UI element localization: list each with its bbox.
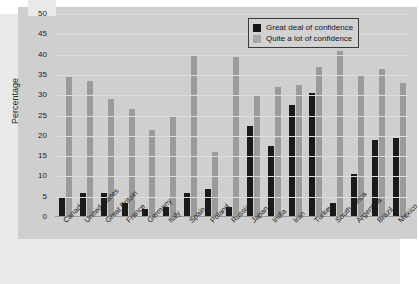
legend-swatch-quite-a-lot [253, 35, 261, 43]
y-axis-tick-50: 50 [38, 10, 47, 18]
legend-swatch-great-deal [253, 24, 261, 32]
y-axis-tick-5: 5 [43, 193, 47, 201]
y-axis-tick-45: 45 [38, 30, 47, 38]
gridline-50 [55, 14, 410, 15]
gridline-25 [55, 116, 410, 117]
bar-great-deal [309, 93, 315, 217]
legend-item-great-deal: Great deal of confidence [253, 22, 353, 33]
y-axis-tick-30: 30 [38, 91, 47, 99]
y-axis-tick-35: 35 [38, 71, 47, 79]
chart-legend: Great deal of confidence Quite a lot of … [248, 18, 359, 48]
bar-great-deal [205, 189, 211, 217]
x-axis-tick-labels: CanadaUnited StatesGreat BritainFranceGe… [55, 219, 410, 284]
y-axis-tick-0: 0 [43, 213, 47, 221]
bar-quite-a-lot [316, 67, 322, 217]
bar-quite-a-lot [149, 130, 155, 217]
legend-label-quite-a-lot: Quite a lot of confidence [266, 34, 352, 43]
y-axis-tick-10: 10 [38, 172, 47, 180]
legend-item-quite-a-lot: Quite a lot of confidence [253, 33, 353, 44]
y-axis-tick-15: 15 [38, 152, 47, 160]
bar-great-deal [393, 138, 399, 217]
bar-quite-a-lot [379, 69, 385, 217]
bar-quite-a-lot [233, 57, 239, 217]
y-axis-tick-40: 40 [38, 51, 47, 59]
y-axis-tick-labels: 05101520253035404550 [0, 0, 55, 284]
gridline-35 [55, 75, 410, 76]
y-axis-tick-25: 25 [38, 112, 47, 120]
gridline-15 [55, 156, 410, 157]
gridline-30 [55, 95, 410, 96]
bar-quite-a-lot [212, 152, 218, 217]
gridline-10 [55, 176, 410, 177]
bar-great-deal [289, 105, 295, 217]
gridline-20 [55, 136, 410, 137]
legend-label-great-deal: Great deal of confidence [266, 23, 353, 32]
gridline-40 [55, 55, 410, 56]
y-axis-tick-20: 20 [38, 132, 47, 140]
